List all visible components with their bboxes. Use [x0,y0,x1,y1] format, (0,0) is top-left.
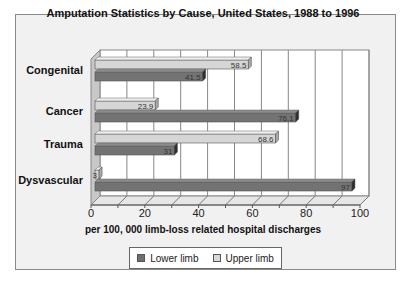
x-tick-label: 60 [246,207,258,219]
category-label: Congenital [26,64,83,76]
category-label: Dysvascular [18,174,84,186]
category-label: Trauma [44,138,84,150]
legend-label-upper: Upper limb [226,253,274,264]
legend-label-lower: Lower limb [150,253,198,264]
legend-item-upper-limb: Upper limb [213,253,274,264]
data-label: 23.9 [138,102,154,111]
lower-limb-swatch [137,254,145,262]
data-label: 41.5 [185,73,201,82]
legend: Lower limb Upper limb [129,247,282,269]
bar-lower-limb-top [95,110,299,113]
x-tick-label: 80 [300,207,312,219]
bar-upper-limb-top [95,131,279,134]
data-label: 31 [163,147,172,156]
data-label: 58.5 [231,61,247,70]
plot-area: 02040608010058.541.5Congenital23.976.1Ca… [0,0,406,284]
bar-lower-limb-top [95,179,355,182]
data-label: 76.1 [278,114,294,123]
x-tick-label: 0 [88,207,94,219]
x-tick-label: 100 [351,207,369,219]
data-label: 68.6 [258,135,274,144]
bar-upper-limb [95,134,276,143]
upper-limb-swatch [213,254,221,262]
bar-upper-limb-top [95,57,251,60]
x-tick-label: 20 [139,207,151,219]
bar-lower-limb [95,113,296,122]
bar-lower-limb [95,146,174,155]
category-label: Cancer [46,105,84,117]
data-label: 3 [93,171,98,180]
x-axis-label: per 100, 000 limb-loss related hospital … [0,224,406,235]
data-label: 97 [341,183,350,192]
bar-lower-limb [95,182,352,191]
x-tick-label: 40 [192,207,204,219]
legend-item-lower-limb: Lower limb [137,253,198,264]
bar-upper-limb [95,60,248,69]
